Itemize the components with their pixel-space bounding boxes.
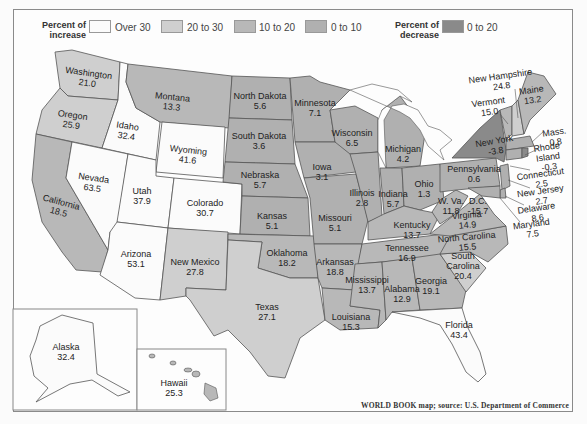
state-name: Kansas bbox=[257, 211, 287, 221]
label-georgia: Georgia19.1 bbox=[415, 276, 447, 296]
state-name: Colorado bbox=[187, 198, 224, 208]
state-value: 7.1 bbox=[294, 108, 336, 118]
label-montana: Montana13.3 bbox=[154, 90, 191, 114]
label-hawaii: Hawaii25.3 bbox=[160, 378, 187, 398]
state-name: North Dakota bbox=[233, 91, 286, 101]
label-tennessee: Tennessee16.9 bbox=[385, 243, 429, 263]
label-nebraska: Nebraska5.7 bbox=[241, 170, 280, 190]
label-kansas: Kansas5.1 bbox=[257, 211, 287, 231]
state-name: Arkansas bbox=[316, 257, 354, 267]
state-rhode-island bbox=[522, 148, 528, 158]
state-value: 16.9 bbox=[385, 253, 429, 263]
state-value: 4.2 bbox=[385, 154, 421, 164]
state-name: Iowa bbox=[312, 162, 331, 172]
state-value: 25.3 bbox=[160, 388, 187, 398]
state-value: 6.5 bbox=[331, 138, 372, 148]
label-arkansas: Arkansas18.8 bbox=[316, 257, 354, 277]
state-name: Nebraska bbox=[241, 170, 280, 180]
state-value: 3.1 bbox=[312, 172, 331, 182]
state-value: 13.7 bbox=[393, 230, 430, 240]
state-value: 27.1 bbox=[255, 312, 279, 322]
label-dc: D.C.-15.7 bbox=[468, 196, 489, 216]
state-name: Illinois bbox=[349, 188, 374, 198]
state-value: 2.8 bbox=[349, 198, 374, 208]
state-name: Arizona bbox=[121, 249, 152, 259]
state-value: 0.6 bbox=[447, 174, 501, 184]
state-name: Missouri bbox=[318, 213, 352, 223]
state-name: Florida bbox=[445, 320, 473, 330]
label-oregon: Oregon25.9 bbox=[56, 108, 89, 132]
state-new-jersey bbox=[500, 164, 510, 190]
state-value: 18.2 bbox=[266, 258, 307, 268]
state-name: Georgia bbox=[415, 276, 447, 286]
state-value: 5.7 bbox=[378, 199, 408, 209]
state-name: Louisiana bbox=[332, 312, 371, 322]
state-name: Kentucky bbox=[393, 220, 430, 230]
state-name: Tennessee bbox=[385, 243, 429, 253]
label-wisconsin: Wisconsin6.5 bbox=[331, 128, 372, 148]
state-value: 5.6 bbox=[233, 101, 286, 111]
state-value: 20.4 bbox=[446, 271, 480, 281]
state-name: Utah bbox=[132, 186, 151, 196]
state-value: 5.1 bbox=[257, 221, 287, 231]
label-michigan: Michigan4.2 bbox=[385, 144, 421, 164]
state-value: 15.3 bbox=[332, 322, 371, 332]
state-name: D.C. bbox=[469, 196, 487, 206]
state-name-line2: Carolina bbox=[446, 261, 480, 271]
state-value: -15.7 bbox=[468, 206, 489, 216]
state-value: 30.7 bbox=[187, 208, 224, 218]
state-name: Hawaii bbox=[160, 378, 187, 388]
label-oklahoma: Oklahoma18.2 bbox=[266, 248, 307, 268]
label-nevada: Nevada63.5 bbox=[76, 171, 110, 195]
state-name: Michigan bbox=[385, 144, 421, 154]
label-alaska: Alaska32.4 bbox=[52, 342, 79, 362]
state-delaware bbox=[500, 188, 506, 198]
state-name: Texas bbox=[255, 302, 279, 312]
us-map bbox=[0, 0, 587, 424]
label-maine: Maine13.2 bbox=[518, 83, 545, 106]
label-iowa: Iowa3.1 bbox=[312, 162, 331, 182]
state-value: 27.8 bbox=[170, 267, 219, 277]
label-north-dakota: North Dakota5.6 bbox=[233, 91, 286, 111]
label-louisiana: Louisiana15.3 bbox=[332, 312, 371, 332]
state-value: 43.4 bbox=[445, 330, 473, 340]
state-name: Ohio bbox=[414, 179, 433, 189]
state-value: 3.6 bbox=[232, 141, 287, 151]
label-minnesota: Minnesota7.1 bbox=[294, 98, 336, 118]
label-ohio: Ohio1.3 bbox=[414, 179, 433, 199]
label-texas: Texas27.1 bbox=[255, 302, 279, 322]
state-name: Mississippi bbox=[345, 275, 389, 285]
state-value: 13.7 bbox=[345, 285, 389, 295]
label-missouri: Missouri5.1 bbox=[318, 213, 352, 233]
label-arizona: Arizona53.1 bbox=[121, 249, 152, 269]
state-value: 5.1 bbox=[318, 223, 352, 233]
state-name: Indiana bbox=[378, 189, 408, 199]
state-value: 11.8 bbox=[438, 206, 464, 216]
label-south-carolina: SouthCarolina20.4 bbox=[446, 251, 480, 281]
state-name: Alaska bbox=[52, 342, 79, 352]
label-illinois: Illinois2.8 bbox=[349, 188, 374, 208]
label-west-virginia: W. Va.11.8 bbox=[438, 196, 464, 216]
state-name: New Mexico bbox=[170, 257, 219, 267]
state-value: 32.4 bbox=[52, 352, 79, 362]
source-credit: WORLD BOOK map; source: U.S. Department … bbox=[361, 401, 569, 410]
label-pennsylvania: Pennsylvania0.6 bbox=[447, 164, 501, 184]
state-name: Oklahoma bbox=[266, 248, 307, 258]
label-colorado: Colorado30.7 bbox=[187, 198, 224, 218]
label-wyoming: Wyoming41.6 bbox=[168, 143, 207, 167]
label-south-dakota: South Dakota3.6 bbox=[232, 131, 287, 151]
state-name: Pennsylvania bbox=[447, 164, 501, 174]
label-kentucky: Kentucky13.7 bbox=[393, 220, 430, 240]
label-indiana: Indiana5.7 bbox=[378, 189, 408, 209]
label-new-mexico: New Mexico27.8 bbox=[170, 257, 219, 277]
label-idaho: Idaho32.4 bbox=[114, 120, 139, 143]
state-name: Wisconsin bbox=[331, 128, 372, 138]
state-name: W. Va. bbox=[438, 196, 464, 206]
label-utah: Utah37.9 bbox=[132, 186, 151, 206]
state-value: 5.7 bbox=[241, 180, 280, 190]
state-value: 1.3 bbox=[414, 189, 433, 199]
state-name: Minnesota bbox=[294, 98, 336, 108]
label-mississippi: Mississippi13.7 bbox=[345, 275, 389, 295]
state-value: 37.9 bbox=[132, 196, 151, 206]
label-florida: Florida43.4 bbox=[445, 320, 473, 340]
